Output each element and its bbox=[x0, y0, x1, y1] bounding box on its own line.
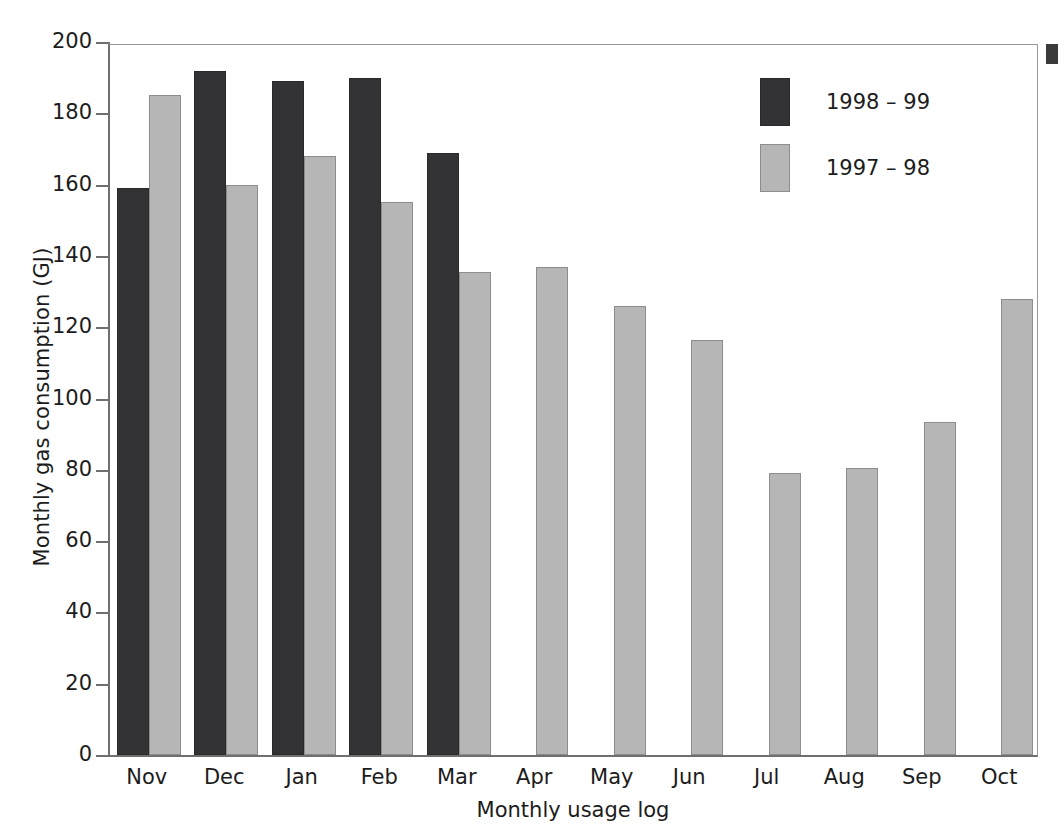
bar-aug-light bbox=[846, 468, 878, 755]
y-tick-label: 80 bbox=[24, 459, 92, 480]
x-tick-label-oct: Oct bbox=[961, 765, 1039, 789]
y-tick-mark bbox=[96, 541, 110, 543]
bar-sep-light bbox=[924, 422, 956, 755]
y-tick-mark bbox=[96, 470, 110, 472]
legend-label-1997-98: 1997 – 98 bbox=[826, 156, 930, 180]
y-tick-mark bbox=[96, 113, 110, 115]
y-tick-mark bbox=[96, 684, 110, 686]
cropped-edge-fragment bbox=[1046, 44, 1058, 64]
x-tick-label-apr: Apr bbox=[496, 765, 574, 789]
bar-dec-dark bbox=[194, 71, 226, 755]
y-tick-mark bbox=[96, 185, 110, 187]
bar-nov-dark bbox=[117, 188, 149, 755]
y-tick-label: 100 bbox=[24, 388, 92, 409]
bar-dec-light bbox=[226, 185, 258, 755]
bar-jul-light bbox=[769, 473, 801, 755]
legend-swatch-dark bbox=[760, 78, 790, 126]
y-tick-mark bbox=[96, 256, 110, 258]
y-tick-mark bbox=[96, 327, 110, 329]
bar-feb-dark bbox=[349, 78, 381, 755]
y-tick-mark bbox=[96, 399, 110, 401]
x-tick-label-jan: Jan bbox=[263, 765, 341, 789]
x-axis-title: Monthly usage log bbox=[108, 798, 1038, 822]
y-tick-label: 20 bbox=[24, 673, 92, 694]
x-tick-label-feb: Feb bbox=[341, 765, 419, 789]
bar-apr-light bbox=[536, 267, 568, 755]
x-tick-label-dec: Dec bbox=[186, 765, 264, 789]
bar-jan-light bbox=[304, 156, 336, 755]
gas-consumption-bar-chart: Monthly gas consumption (GJ) 02040608010… bbox=[0, 0, 1064, 832]
bar-jun-light bbox=[691, 340, 723, 755]
x-tick-label-jul: Jul bbox=[728, 765, 806, 789]
y-tick-label: 200 bbox=[24, 31, 92, 52]
bar-feb-light bbox=[381, 202, 413, 755]
y-tick-label: 40 bbox=[24, 601, 92, 622]
bar-oct-light bbox=[1001, 299, 1033, 755]
y-tick-label: 140 bbox=[24, 245, 92, 266]
bar-may-light bbox=[614, 306, 646, 755]
legend-label-1998-99: 1998 – 99 bbox=[826, 90, 930, 114]
bar-mar-dark bbox=[427, 153, 459, 755]
y-tick-label: 160 bbox=[24, 174, 92, 195]
y-tick-label: 60 bbox=[24, 530, 92, 551]
x-tick-label-sep: Sep bbox=[883, 765, 961, 789]
x-tick-label-mar: Mar bbox=[418, 765, 496, 789]
bar-jan-dark bbox=[272, 81, 304, 755]
y-tick-mark bbox=[96, 612, 110, 614]
y-tick-label: 0 bbox=[24, 744, 92, 765]
x-tick-label-aug: Aug bbox=[806, 765, 884, 789]
y-tick-label: 120 bbox=[24, 316, 92, 337]
x-tick-label-jun: Jun bbox=[651, 765, 729, 789]
bar-mar-light bbox=[459, 272, 491, 755]
x-tick-label-nov: Nov bbox=[108, 765, 186, 789]
y-tick-mark bbox=[96, 42, 110, 44]
x-axis-tick-labels: NovDecJanFebMarAprMayJunJulAugSepOct bbox=[108, 765, 1038, 795]
x-tick-label-may: May bbox=[573, 765, 651, 789]
y-tick-label: 180 bbox=[24, 102, 92, 123]
y-tick-mark bbox=[96, 755, 110, 757]
legend-swatch-light bbox=[760, 144, 790, 192]
legend-item-1997-98: 1997 – 98 bbox=[760, 144, 930, 192]
legend-item-1998-99: 1998 – 99 bbox=[760, 78, 930, 126]
bar-nov-light bbox=[149, 95, 181, 755]
